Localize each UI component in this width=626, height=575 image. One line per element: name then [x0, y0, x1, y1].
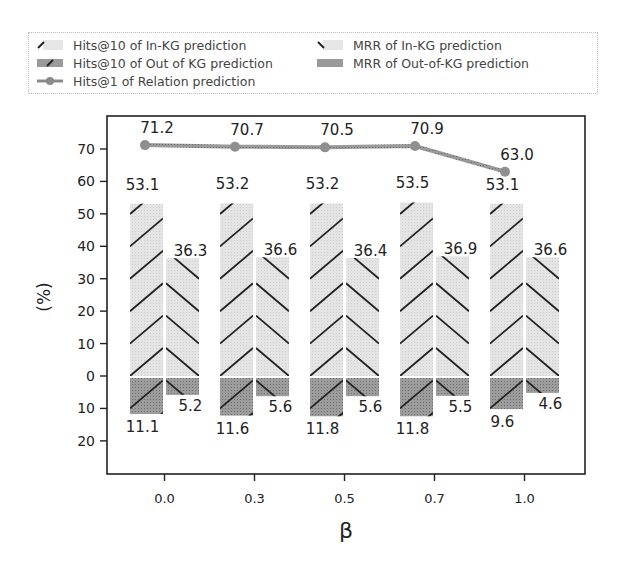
value-label: 36.4: [354, 242, 387, 260]
value-label: 11.8: [396, 420, 429, 438]
value-label: 5.5: [449, 398, 473, 416]
line-marker: [500, 167, 510, 177]
y-tick-label: 20: [77, 433, 95, 449]
y-axis-label: (%): [34, 282, 54, 311]
value-label: 53.5: [396, 174, 429, 192]
value-label: 5.6: [359, 398, 383, 416]
value-label: 4.6: [539, 395, 563, 413]
y-tick-label: 0: [86, 368, 95, 384]
bar-mrr-outkg: [436, 378, 469, 396]
bar-hits10-inkg: [490, 204, 523, 376]
value-label: 70.7: [230, 121, 263, 139]
value-label: 70.5: [320, 121, 353, 139]
value-label: 36.6: [534, 241, 567, 259]
x-tick-label: 1.0: [514, 491, 535, 506]
bar-mrr-outkg: [166, 378, 199, 395]
plot-area: 7060504030201001020(%)0.053.136.311.15.2…: [34, 116, 585, 543]
value-label: 36.6: [264, 241, 297, 259]
bar-hits10-inkg: [310, 203, 343, 376]
value-label: 53.1: [126, 176, 159, 194]
y-tick-label: 10: [77, 336, 95, 352]
y-tick-label: 30: [77, 271, 95, 287]
y-tick-label: 20: [77, 303, 95, 319]
value-label: 53.2: [216, 175, 249, 193]
value-label: 11.6: [216, 420, 249, 438]
value-label: 5.6: [269, 398, 293, 416]
y-tick-label: 10: [77, 400, 95, 416]
line-marker: [140, 140, 150, 150]
x-tick-label: 0.7: [424, 491, 445, 506]
line-marker: [320, 142, 330, 152]
value-label: 5.2: [179, 397, 203, 415]
value-label: 53.1: [486, 176, 519, 194]
value-label: 70.9: [410, 120, 443, 138]
value-label: 36.3: [174, 242, 207, 260]
x-axis-label: β: [339, 518, 353, 543]
bar-hits10-inkg: [220, 203, 253, 376]
bar-line-chart: 7060504030201001020(%)0.053.136.311.15.2…: [0, 0, 626, 575]
value-label: 71.2: [140, 119, 173, 137]
value-label: 11.1: [126, 418, 159, 436]
bar-mrr-inkg: [166, 258, 199, 376]
bar-hits10-inkg: [130, 204, 163, 376]
y-tick-label: 70: [77, 141, 95, 157]
bar-hits10-outkg: [130, 378, 163, 414]
x-tick-label: 0.5: [334, 491, 355, 506]
value-label: 36.9: [444, 240, 477, 258]
value-label: 63.0: [500, 146, 533, 164]
value-label: 9.6: [491, 413, 515, 431]
y-tick-label: 50: [77, 206, 95, 222]
x-tick-label: 0.3: [244, 491, 265, 506]
line-marker: [230, 142, 240, 152]
value-label: 11.8: [306, 420, 339, 438]
line-marker: [410, 141, 420, 151]
bar-hits10-inkg: [400, 202, 433, 376]
y-tick-label: 40: [77, 238, 95, 254]
y-tick-label: 60: [77, 173, 95, 189]
x-tick-label: 0.0: [154, 491, 175, 506]
value-label: 53.2: [306, 175, 339, 193]
